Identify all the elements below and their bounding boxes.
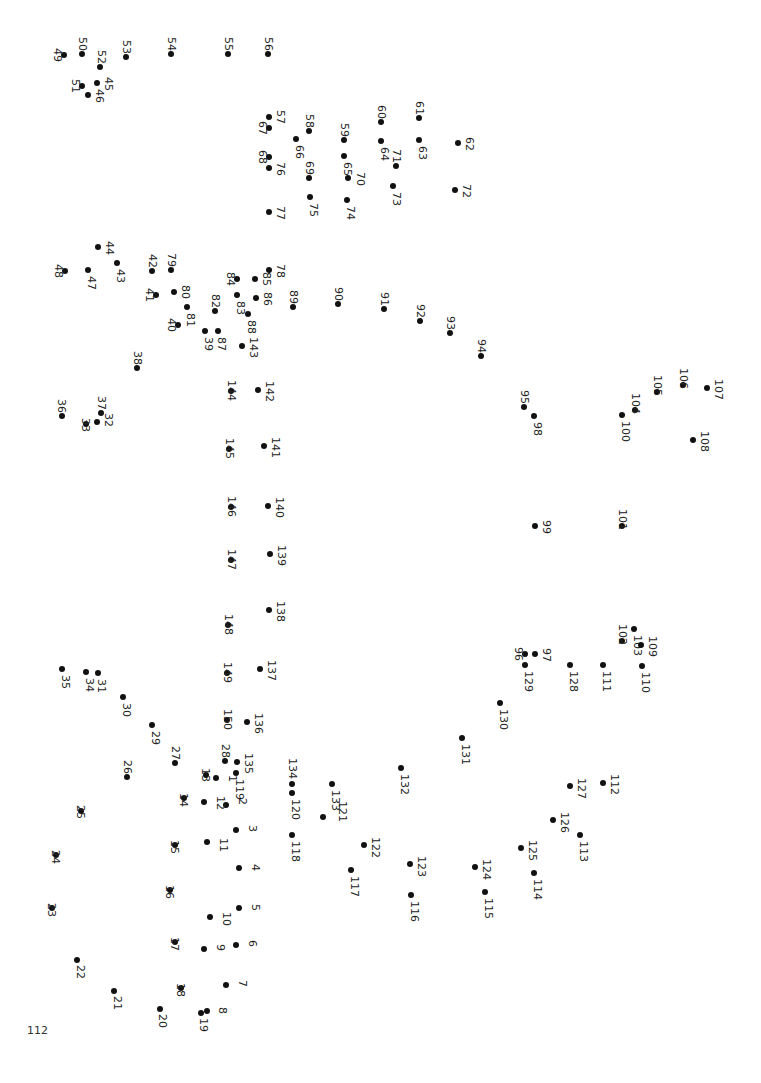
dot-124 [472, 864, 478, 870]
dot-94 [478, 353, 484, 359]
dot-label: 4 [250, 864, 261, 871]
dot-31 [95, 670, 101, 676]
dot-label: 102 [617, 624, 628, 645]
dot-139 [267, 551, 273, 557]
dot-label: 108 [699, 431, 710, 452]
dot-label: 143 [248, 337, 259, 358]
dot-44 [95, 244, 101, 250]
dot-label: 131 [460, 744, 471, 765]
dot-60 [378, 119, 384, 125]
dot-label: 150 [222, 709, 233, 730]
dot-label: 27 [170, 746, 181, 760]
dot-label: 55 [223, 37, 234, 51]
dot-1 [213, 775, 219, 781]
dot-123 [407, 861, 413, 867]
dot-label: 139 [276, 545, 287, 566]
dot-label: 51 [70, 79, 81, 93]
dot-label: 43 [115, 269, 126, 283]
dot-label: 66 [294, 145, 305, 159]
dot-5 [236, 905, 242, 911]
dot-label: 91 [379, 292, 390, 306]
dot-label: 31 [96, 679, 107, 693]
dot-46 [85, 92, 91, 98]
dot-label: 82 [210, 294, 221, 308]
dot-label: 84 [225, 272, 236, 286]
dot-70 [345, 175, 351, 181]
dot-label: 54 [166, 37, 177, 51]
dot-label: 138 [275, 601, 286, 622]
dot-label: 37 [96, 396, 107, 410]
dot-label: 32 [103, 413, 114, 427]
dot-125 [518, 845, 524, 851]
dot-label: 65 [342, 162, 353, 176]
dot-95 [521, 404, 527, 410]
dot-113 [577, 832, 583, 838]
dot-label: 19 [198, 1018, 209, 1032]
dot-126 [550, 817, 556, 823]
dot-label: 133 [330, 790, 341, 811]
dot-86 [253, 295, 259, 301]
dot-label: 88 [246, 320, 257, 334]
dot-142 [255, 387, 261, 393]
dot-37 [98, 410, 104, 416]
dot-label: 14 [178, 793, 189, 807]
dot-label: 128 [568, 671, 579, 692]
dot-label: 15 [169, 840, 180, 854]
dot-label: 78 [275, 264, 286, 278]
dot-30 [120, 694, 126, 700]
dot-label: 49 [52, 48, 63, 62]
dot-56 [265, 51, 271, 57]
dot-92 [417, 318, 423, 324]
dot-label: 68 [257, 150, 268, 164]
dot-label: 50 [77, 37, 88, 51]
dot-label: 53 [121, 40, 132, 54]
dot-55 [225, 51, 231, 57]
dot-label: 144 [226, 380, 237, 401]
dot-52 [97, 64, 103, 70]
dot-label: 64 [379, 147, 390, 161]
dot-82 [212, 308, 218, 314]
dot-62 [455, 140, 461, 146]
dot-63 [416, 137, 422, 143]
dot-label: 129 [523, 671, 534, 692]
dot-label: 36 [56, 399, 67, 413]
dot-label: 77 [275, 206, 286, 220]
dot-label: 60 [376, 105, 387, 119]
dot-label: 94 [476, 339, 487, 353]
dot-label: 72 [461, 184, 472, 198]
dot-label: 38 [132, 351, 143, 365]
dot-label: 39 [203, 337, 214, 351]
dot-label: 98 [532, 422, 543, 436]
dot-75 [307, 194, 313, 200]
dot-label: 57 [275, 110, 286, 124]
dot-label: 69 [304, 161, 315, 175]
dot-label: 18 [175, 983, 186, 997]
dot-label: 92 [415, 304, 426, 318]
dot-label: 116 [409, 901, 420, 922]
dot-label: 100 [620, 421, 631, 442]
dot-50 [79, 51, 85, 57]
dot-57 [266, 114, 272, 120]
dot-label: 34 [84, 678, 95, 692]
dot-71 [393, 163, 399, 169]
dot-label: 111 [601, 671, 612, 692]
dot-label: 145 [224, 438, 235, 459]
dot-label: 20 [157, 1014, 168, 1028]
dot-38 [134, 365, 140, 371]
dot-label: 80 [180, 285, 191, 299]
dot-73 [390, 183, 396, 189]
dot-label: 130 [498, 709, 509, 730]
dot-79 [168, 267, 174, 273]
dot-90 [335, 301, 341, 307]
dot-label: 110 [640, 672, 651, 693]
dot-58 [306, 128, 312, 134]
dot-74 [344, 197, 350, 203]
dot-label: 141 [270, 437, 281, 458]
dot-label: 79 [166, 253, 177, 267]
dot-label: 146 [226, 496, 237, 517]
dot-label: 122 [370, 837, 381, 858]
dot-label: 61 [414, 101, 425, 115]
dot-66 [293, 136, 299, 142]
dot-111 [600, 662, 606, 668]
dot-label: 75 [308, 203, 319, 217]
